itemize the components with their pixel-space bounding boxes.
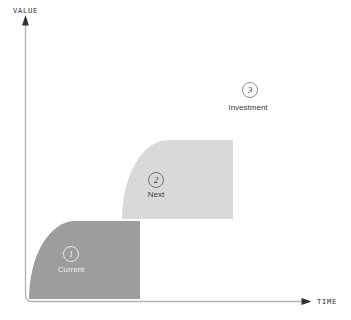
stage-1-circle: 1 <box>63 246 79 262</box>
y-axis-arrow-icon <box>22 15 29 26</box>
x-axis-label: TIME <box>317 298 337 306</box>
stage-1-label: Current <box>36 266 106 274</box>
stage-3-circle: 3 <box>242 82 258 98</box>
stage-1-number: 1 <box>69 250 74 259</box>
stage-2-label: Next <box>121 191 191 199</box>
stage-2-circle: 2 <box>148 172 164 188</box>
stage-3-label: Investment <box>213 104 283 112</box>
x-axis-arrow-icon <box>302 298 312 305</box>
stage-2-number: 2 <box>154 176 159 185</box>
stage-3-number: 3 <box>248 86 253 95</box>
growth-curves-diagram: VALUE TIME 1 Current 2 Next 3 Investment <box>0 0 351 320</box>
y-axis-label: VALUE <box>13 7 38 15</box>
